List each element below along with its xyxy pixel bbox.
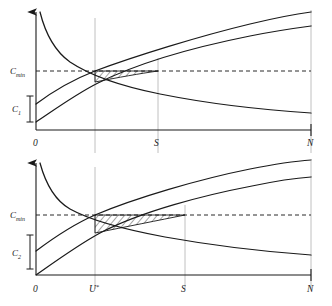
label-c2-bottom: C2	[12, 248, 21, 260]
label-s-top: S	[154, 138, 159, 148]
figure-root: Cmin C1 0 S N	[0, 0, 332, 306]
label-origin-bottom: 0	[33, 284, 38, 294]
decreasing-cost-curve-bottom	[40, 163, 311, 255]
label-cmin-bottom: Cmin	[10, 210, 25, 222]
lower-increasing-curve-top	[36, 26, 311, 122]
label-n-top: N	[306, 138, 314, 148]
upper-increasing-curve-top	[36, 12, 311, 104]
label-n-bottom: N	[306, 284, 314, 294]
upper-increasing-curve-bottom	[36, 160, 311, 251]
label-u-star-bottom: U*	[89, 283, 99, 295]
label-c1-top: C1	[12, 104, 21, 116]
label-s-bottom: S	[181, 284, 186, 294]
chart-panel-top: Cmin C1 0 S N	[0, 0, 332, 153]
chart-panel-bottom: Cmin C2 0 U* S N	[0, 153, 332, 306]
label-cmin-top: Cmin	[10, 66, 25, 78]
decreasing-cost-curve-top	[40, 12, 311, 113]
lower-increasing-curve-bottom	[36, 177, 311, 275]
label-origin-top: 0	[33, 138, 38, 148]
